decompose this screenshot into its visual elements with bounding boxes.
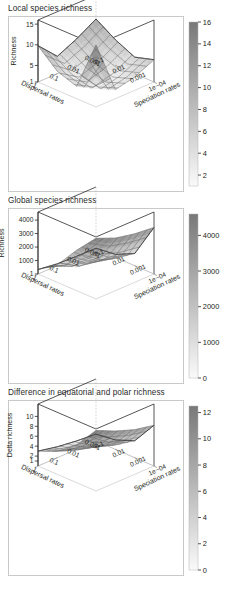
z-axis-label: Delta richness [6,412,13,457]
panel-title: Difference in equatorial and polar richn… [0,384,228,400]
z-tick-label: 4 [30,443,34,450]
colorbar-tick-label: 10 [203,83,211,92]
surface-plot: 151015Richness10.10.010.001Dispersal rat… [9,17,183,191]
z-axis-label: Richness [10,36,17,65]
colorbar-svg: 01000200030004000 [187,208,227,384]
z-tick-label: 4000 [19,216,34,223]
colorbar-gradient [189,22,198,186]
colorbar-tick-label: 14 [203,39,211,48]
z-tick-label: 5 [30,62,34,69]
plot-frame: 1246810Delta richness10.10.010.001Disper… [8,400,184,576]
colorbar-tick-label: 6 [203,127,207,136]
colorbar-svg: 246810121416 [187,16,227,192]
colorbar-tick-label: 2 [203,171,207,180]
colorbar-tick-label: 4000 [203,231,219,240]
z-tick-label: 1000 [19,257,34,264]
colorbar-tick-label: 2 [203,539,207,548]
x-axis-label: Dispersal rates [20,463,66,490]
colorbar: 024681012 [187,400,227,576]
x-axis-label: Dispersal rates [20,271,66,298]
x-tick-label: 0.1 [49,72,61,82]
plot-frame: 11000200030004000Richness10.10.010.001Di… [8,208,184,384]
colorbar-tick-label: 10 [203,434,211,443]
panel-difference-equatorial-polar: Difference in equatorial and polar richn… [0,384,228,576]
colorbar: 01000200030004000 [187,208,227,384]
panel-title: Global species richness [0,192,228,208]
z-tick-label: 10 [26,41,34,48]
figure-surface-plots: Local species richness 151015Richness10.… [0,0,228,592]
colorbar-tick-label: 4 [203,513,207,522]
colorbar-gradient [189,214,198,378]
z-tick-label: 3000 [19,230,34,237]
z-tick-label: 10 [26,413,34,420]
colorbar-tick-label: 3000 [203,267,219,276]
surface-plot: 11000200030004000Richness10.10.010.001Di… [9,209,183,383]
panel-body: 11000200030004000Richness10.10.010.001Di… [0,208,228,384]
z-tick-label: 6 [30,433,34,440]
colorbar-tick-label: 8 [203,105,207,114]
x-tick-label: 0.1 [49,456,61,466]
colorbar-tick-label: 16 [203,18,211,27]
colorbar-tick-label: 0 [203,374,207,383]
colorbar-tick-label: 8 [203,461,207,470]
z-tick-label: 2 [30,452,34,459]
colorbar-tick-label: 12 [203,408,211,417]
colorbar-tick-label: 1000 [203,338,219,347]
z-tick-label: 15 [26,21,34,28]
z-tick-label: 2000 [19,243,34,250]
panel-local-species-richness: Local species richness 151015Richness10.… [0,0,228,192]
colorbar-tick-label: 4 [203,149,207,158]
plot-frame: 151015Richness10.10.010.001Dispersal rat… [8,16,184,192]
x-axis-label: Dispersal rates [20,79,66,106]
colorbar-tick-label: 2000 [203,302,219,311]
colorbar-tick-label: 6 [203,487,207,496]
colorbar-tick-label: 0 [203,566,207,575]
colorbar-gradient [189,406,198,570]
panel-body: 151015Richness10.10.010.001Dispersal rat… [0,16,228,192]
panel-body: 1246810Delta richness10.10.010.001Disper… [0,400,228,576]
colorbar: 246810121416 [187,16,227,192]
z-tick-label: 8 [30,423,34,430]
panel-title: Local species richness [0,0,228,16]
colorbar-svg: 024681012 [187,400,227,576]
colorbar-tick-label: 12 [203,61,211,70]
panel-global-species-richness: Global species richness 1100020003000400… [0,192,228,384]
z-axis-label: Richness [0,228,5,257]
surface-plot: 1246810Delta richness10.10.010.001Disper… [9,401,183,575]
